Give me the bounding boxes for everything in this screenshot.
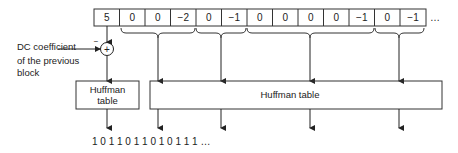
brace-2 (196, 28, 246, 38)
coef-4: 0 (206, 12, 212, 23)
ac-input-arrows (158, 38, 399, 81)
brace-1 (121, 28, 195, 38)
coef-1: 0 (130, 12, 136, 23)
coef-8: 0 (308, 12, 314, 23)
run-length-braces (121, 28, 424, 38)
dc-label-line2: of the previous (17, 55, 80, 66)
minus-sign: − (94, 37, 99, 46)
coef-3: −2 (178, 12, 190, 23)
coef-10: −1 (356, 12, 368, 23)
coef-11: 0 (385, 12, 391, 23)
output-bitstream: 1 0 1 1 0 1 1 0 1 0 1 1 1 … (92, 136, 210, 147)
dc-huffman-line2: table (97, 95, 118, 106)
coef-6: 0 (257, 12, 263, 23)
dc-label-line3: block (17, 67, 39, 78)
coef-12: −1 (407, 12, 419, 23)
coefficients-ellipsis: … (430, 12, 440, 23)
dc-label-line1: DC coefficient (17, 41, 76, 52)
jpeg-entropy-coding-diagram: 5 0 0 −2 0 −1 0 0 0 0 −1 0 −1 … + − DC c… (0, 0, 458, 153)
output-arrows (107, 109, 399, 128)
brace-4 (375, 28, 424, 38)
coef-7: 0 (283, 12, 289, 23)
coef-9: 0 (334, 12, 340, 23)
coef-0: 5 (104, 12, 110, 23)
coef-5: −1 (229, 12, 241, 23)
dc-huffman-line1: Huffman (90, 84, 126, 95)
coef-2: 0 (155, 12, 161, 23)
ac-huffman-label: Huffman table (261, 89, 320, 100)
brace-3 (247, 28, 374, 38)
plus-sign: + (104, 44, 110, 55)
